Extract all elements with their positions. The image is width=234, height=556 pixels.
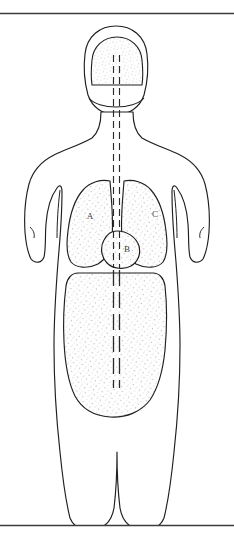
label-a: A	[87, 211, 94, 221]
anatomy-figure: A B C	[0, 0, 234, 556]
anatomy-diagram-svg: A B C	[0, 0, 234, 556]
abdomen-region	[64, 273, 167, 417]
label-c: C	[152, 209, 158, 219]
brain-region	[91, 37, 143, 85]
label-b: B	[124, 244, 130, 254]
